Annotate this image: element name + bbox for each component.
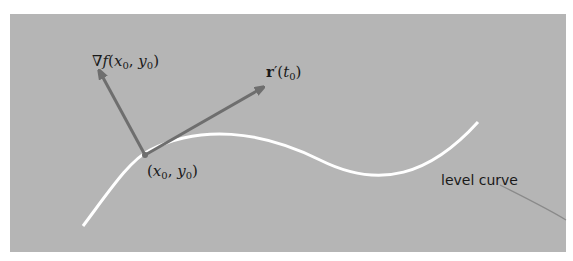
diagram-background	[10, 14, 566, 252]
level-curve-diagram: ∇f(x0, y0) r′(t0) (x0, y0) level curve	[0, 0, 573, 261]
tangent-label: r′(t0)	[266, 63, 301, 82]
point-marker	[142, 152, 148, 158]
level-curve-label: level curve	[441, 172, 518, 188]
